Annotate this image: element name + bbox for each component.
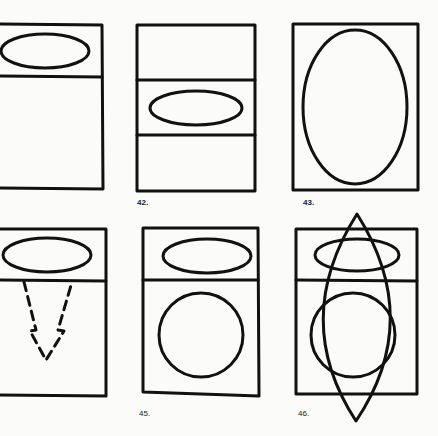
figure-42 [137, 25, 255, 191]
figure-label-42: 42. [137, 198, 148, 207]
figure-43 [293, 24, 418, 190]
figure-46 [296, 214, 417, 421]
figure-45 [143, 228, 259, 396]
figure-label-43: 43. [303, 198, 314, 207]
diagram-canvas [0, 0, 438, 436]
figure-label-45: 45. [139, 409, 150, 418]
figure-44 [0, 229, 106, 396]
figure-41 [0, 24, 103, 189]
figure-label-46: 46. [298, 409, 309, 418]
